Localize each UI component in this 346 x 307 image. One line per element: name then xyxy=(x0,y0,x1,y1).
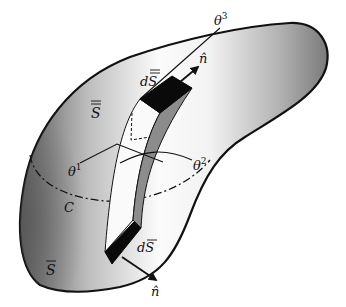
dS-top-label: dS xyxy=(140,74,157,89)
theta3-label: θ3 xyxy=(214,11,228,28)
surface-diagram: θ3 n̂ dS S θ1 θ2 C dS S n̂ xyxy=(0,0,346,307)
S-bottom-label: S xyxy=(46,262,56,278)
dS-bottom-label: dS xyxy=(137,240,154,255)
S-top-label: S xyxy=(91,105,101,121)
curve-c-label: C xyxy=(64,200,74,215)
normal-top-label: n̂ xyxy=(199,51,207,66)
normal-bottom-label: n̂ xyxy=(151,284,159,299)
